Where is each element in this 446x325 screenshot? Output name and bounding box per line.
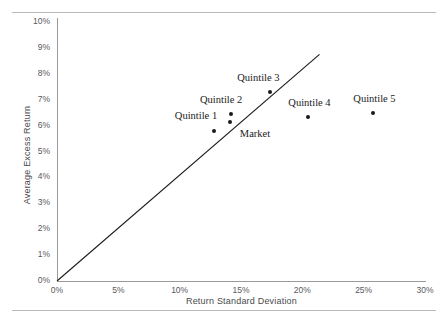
data-label-quintile-2: Quintile 2 (200, 94, 242, 105)
x-axis-title: Return Standard Deviation (57, 296, 426, 306)
data-point-market[interactable] (228, 120, 232, 124)
data-label-quintile-1: Quintile 1 (175, 110, 217, 121)
data-point-quintile-1[interactable] (212, 129, 216, 133)
scatter-chart: 0%1%2%3%4%5%6%7%8%9%10% 0%5%10%15%20%25%… (0, 0, 446, 325)
data-label-quintile-4: Quintile 4 (288, 97, 330, 108)
y-axis-title: Average Excess Return (22, 75, 32, 235)
data-label-quintile-5: Quintile 5 (353, 93, 395, 104)
data-label-market: Market (240, 128, 270, 139)
security-market-line (0, 0, 446, 325)
data-label-quintile-3: Quintile 3 (237, 72, 279, 83)
